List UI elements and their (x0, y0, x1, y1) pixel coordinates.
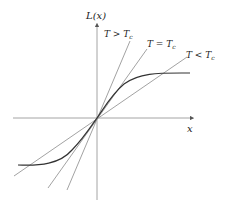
label-t-equal-tc: T = Tc (147, 39, 176, 50)
y-axis-label: L(x) (85, 10, 106, 21)
sigmoid-curve (18, 73, 190, 165)
line-t-below-tc (14, 57, 187, 176)
langevin-diagram: L(x) x T > Tc T = Tc T < Tc (0, 0, 225, 208)
label-t-below-tc: T < Tc (186, 50, 215, 61)
x-axis-label: x (187, 123, 193, 134)
label-t-above-tc: T > Tc (104, 29, 133, 40)
